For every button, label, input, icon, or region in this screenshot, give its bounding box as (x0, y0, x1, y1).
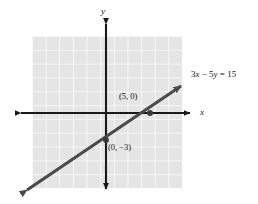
x-axis-label: x (200, 107, 204, 117)
equation-operator: − (200, 69, 210, 79)
equation-equals: = (218, 69, 228, 79)
coordinate-plane-figure: y x (5, 0) (0, −3) 3x − 5y = 15 (0, 0, 258, 204)
equation-label: 3x − 5y = 15 (191, 69, 236, 79)
graph-canvas (0, 0, 258, 204)
y-intercept-label: (0, −3) (108, 142, 131, 152)
x-intercept-label: (5, 0) (119, 91, 137, 101)
y-axis-label: y (101, 6, 105, 16)
point-x-intercept-marker (147, 110, 153, 116)
equation-constant: 15 (227, 69, 236, 79)
